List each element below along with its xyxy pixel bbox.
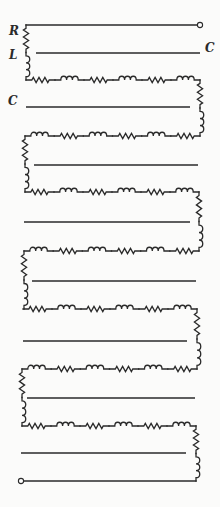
transmission-line-diagram	[0, 0, 220, 507]
resistor-symbol	[25, 189, 54, 194]
inductor-symbol	[51, 422, 80, 426]
inductor-symbol	[196, 454, 200, 482]
inductor-symbol	[141, 247, 170, 251]
resistor-symbol	[51, 366, 80, 371]
inductor-symbol	[25, 132, 54, 136]
inductor-symbol	[55, 76, 84, 80]
output-terminal-icon	[18, 478, 23, 483]
resistor-symbol	[171, 133, 200, 138]
inductor-symbol	[54, 188, 83, 192]
inductor-symbol	[110, 305, 139, 309]
resistor-symbol	[21, 251, 26, 280]
inductor-symbol	[113, 76, 142, 80]
resistor-symbol	[113, 133, 142, 138]
inductor-symbol	[197, 339, 201, 369]
inductor-symbol	[199, 222, 203, 252]
label-resistance: R	[9, 25, 19, 37]
resistor-symbol	[197, 80, 202, 108]
inductor-symbol	[82, 247, 111, 251]
inductor-symbol	[170, 188, 199, 192]
terminals	[18, 22, 202, 483]
inductor-symbol	[142, 132, 171, 136]
resistor-symbol	[138, 423, 167, 428]
inductor-symbol	[168, 305, 197, 309]
resistor-symbol	[142, 77, 171, 82]
inductor-symbol	[25, 164, 29, 192]
inductor-symbol	[109, 422, 138, 426]
inductor-symbol	[200, 108, 204, 136]
label-capacitance-right: C	[205, 42, 215, 54]
resistor-symbol	[53, 248, 82, 253]
resistor-symbol	[83, 189, 112, 194]
inductor-symbol	[24, 247, 53, 251]
resistor-symbol	[84, 77, 113, 82]
resistor-symbol	[112, 248, 141, 253]
inductor-symbol	[22, 398, 26, 427]
series-chain	[19, 25, 203, 481]
resistor-symbol	[23, 306, 52, 311]
inductor-symbol	[112, 188, 141, 192]
resistor-symbol	[194, 309, 199, 339]
resistor-symbol	[80, 423, 109, 428]
inductor-symbol	[24, 280, 28, 309]
resistor-symbol	[193, 426, 198, 454]
resistor-symbol	[22, 136, 27, 164]
inductor-symbol	[167, 422, 196, 426]
inductor-symbol	[139, 365, 168, 369]
input-terminal-icon	[197, 22, 202, 27]
resistor-symbol	[81, 306, 110, 311]
resistor-symbol	[168, 366, 197, 371]
resistor-symbol	[170, 248, 199, 253]
resistor-symbol	[19, 369, 24, 398]
inductor-symbol	[80, 365, 109, 369]
resistor-symbol	[22, 423, 51, 428]
resistor-symbol	[23, 25, 28, 53]
capacitor-plates	[21, 53, 200, 453]
inductor-symbol	[52, 305, 81, 309]
inductor-symbol	[26, 53, 30, 81]
inductor-symbol	[171, 76, 200, 80]
resistor-symbol	[54, 133, 83, 138]
label-inductance: L	[9, 49, 17, 61]
resistor-symbol	[26, 77, 55, 82]
label-capacitance-left: C	[8, 95, 18, 107]
resistor-symbol	[141, 189, 170, 194]
inductor-symbol	[22, 365, 51, 369]
inductor-symbol	[83, 132, 112, 136]
resistor-symbol	[139, 306, 168, 311]
resistor-symbol	[110, 366, 139, 371]
resistor-symbol	[196, 192, 201, 222]
